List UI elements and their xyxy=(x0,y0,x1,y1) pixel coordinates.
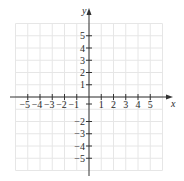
x-tick-label: −2 xyxy=(56,99,67,110)
y-tick-label: 2 xyxy=(80,67,85,78)
axes xyxy=(10,8,173,176)
y-tick-label: −2 xyxy=(74,116,85,127)
y-tick-label: −4 xyxy=(74,141,85,152)
x-tick-label: −5 xyxy=(19,99,30,110)
y-tick-label: 1 xyxy=(80,79,85,90)
y-axis-label: y xyxy=(81,5,87,16)
x-tick-label: −4 xyxy=(32,99,43,110)
x-tick-label: 1 xyxy=(99,99,104,110)
y-tick-label: −5 xyxy=(74,153,85,164)
x-tick-label: −3 xyxy=(44,99,55,110)
x-axis-label: x xyxy=(170,98,176,109)
y-tick-label: 5 xyxy=(80,30,85,41)
y-tick-label: 3 xyxy=(80,55,85,66)
y-axis-arrow-icon xyxy=(87,8,92,15)
x-tick-label: −1 xyxy=(68,99,79,110)
y-tick-label: 4 xyxy=(80,43,85,54)
y-tick-label: −3 xyxy=(74,128,85,139)
coordinate-plane-svg: −5−4−3−2−11234554321−2−3−4−5 x y xyxy=(0,0,184,181)
coordinate-plane: −5−4−3−2−11234554321−2−3−4−5 x y xyxy=(0,0,184,181)
x-tick-label: 3 xyxy=(123,99,128,110)
x-tick-label: 5 xyxy=(148,99,153,110)
x-tick-label: 2 xyxy=(111,99,116,110)
x-tick-label: 4 xyxy=(136,99,141,110)
